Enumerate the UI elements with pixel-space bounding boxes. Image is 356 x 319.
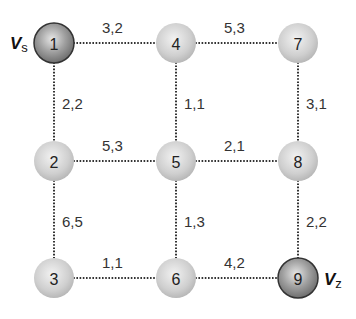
edge-label-2-5: 5,3 bbox=[102, 137, 123, 154]
edge-label-8-9: 2,2 bbox=[306, 213, 327, 230]
edge-label-5-8: 2,1 bbox=[224, 137, 245, 154]
node-label: 4 bbox=[172, 36, 181, 53]
source-label: Vs bbox=[10, 34, 28, 55]
node-label: 3 bbox=[50, 271, 59, 288]
node-label: 1 bbox=[50, 36, 59, 53]
node-3: 3 bbox=[34, 258, 74, 298]
node-2: 2 bbox=[34, 141, 74, 181]
grid-graph-diagram: 3,25,32,21,13,15,32,16,51,32,21,14,2 147… bbox=[0, 0, 356, 319]
edge-label-5-6: 1,3 bbox=[184, 213, 205, 230]
edge-label-4-5: 1,1 bbox=[184, 95, 205, 112]
node-4: 4 bbox=[156, 23, 196, 63]
node-7: 7 bbox=[278, 23, 318, 63]
edge-label-1-4: 3,2 bbox=[102, 19, 123, 36]
node-6: 6 bbox=[156, 258, 196, 298]
node-label: 2 bbox=[50, 154, 59, 171]
node-8: 8 bbox=[278, 141, 318, 181]
node-label: 7 bbox=[294, 36, 303, 53]
node-1: 1 bbox=[34, 23, 74, 63]
node-label: 8 bbox=[294, 154, 303, 171]
edge-label-1-2: 2,2 bbox=[62, 95, 83, 112]
edge-label-2-3: 6,5 bbox=[62, 213, 83, 230]
edge-label-4-7: 5,3 bbox=[224, 19, 245, 36]
edge-label-6-9: 4,2 bbox=[224, 254, 245, 271]
edge-label-7-8: 3,1 bbox=[306, 95, 327, 112]
node-5: 5 bbox=[156, 141, 196, 181]
edge-label-3-6: 1,1 bbox=[102, 254, 123, 271]
node-label: 9 bbox=[294, 271, 303, 288]
sink-label: Vz bbox=[324, 270, 342, 291]
node-label: 6 bbox=[172, 271, 181, 288]
node-9: 9 bbox=[278, 258, 318, 298]
node-label: 5 bbox=[172, 154, 181, 171]
